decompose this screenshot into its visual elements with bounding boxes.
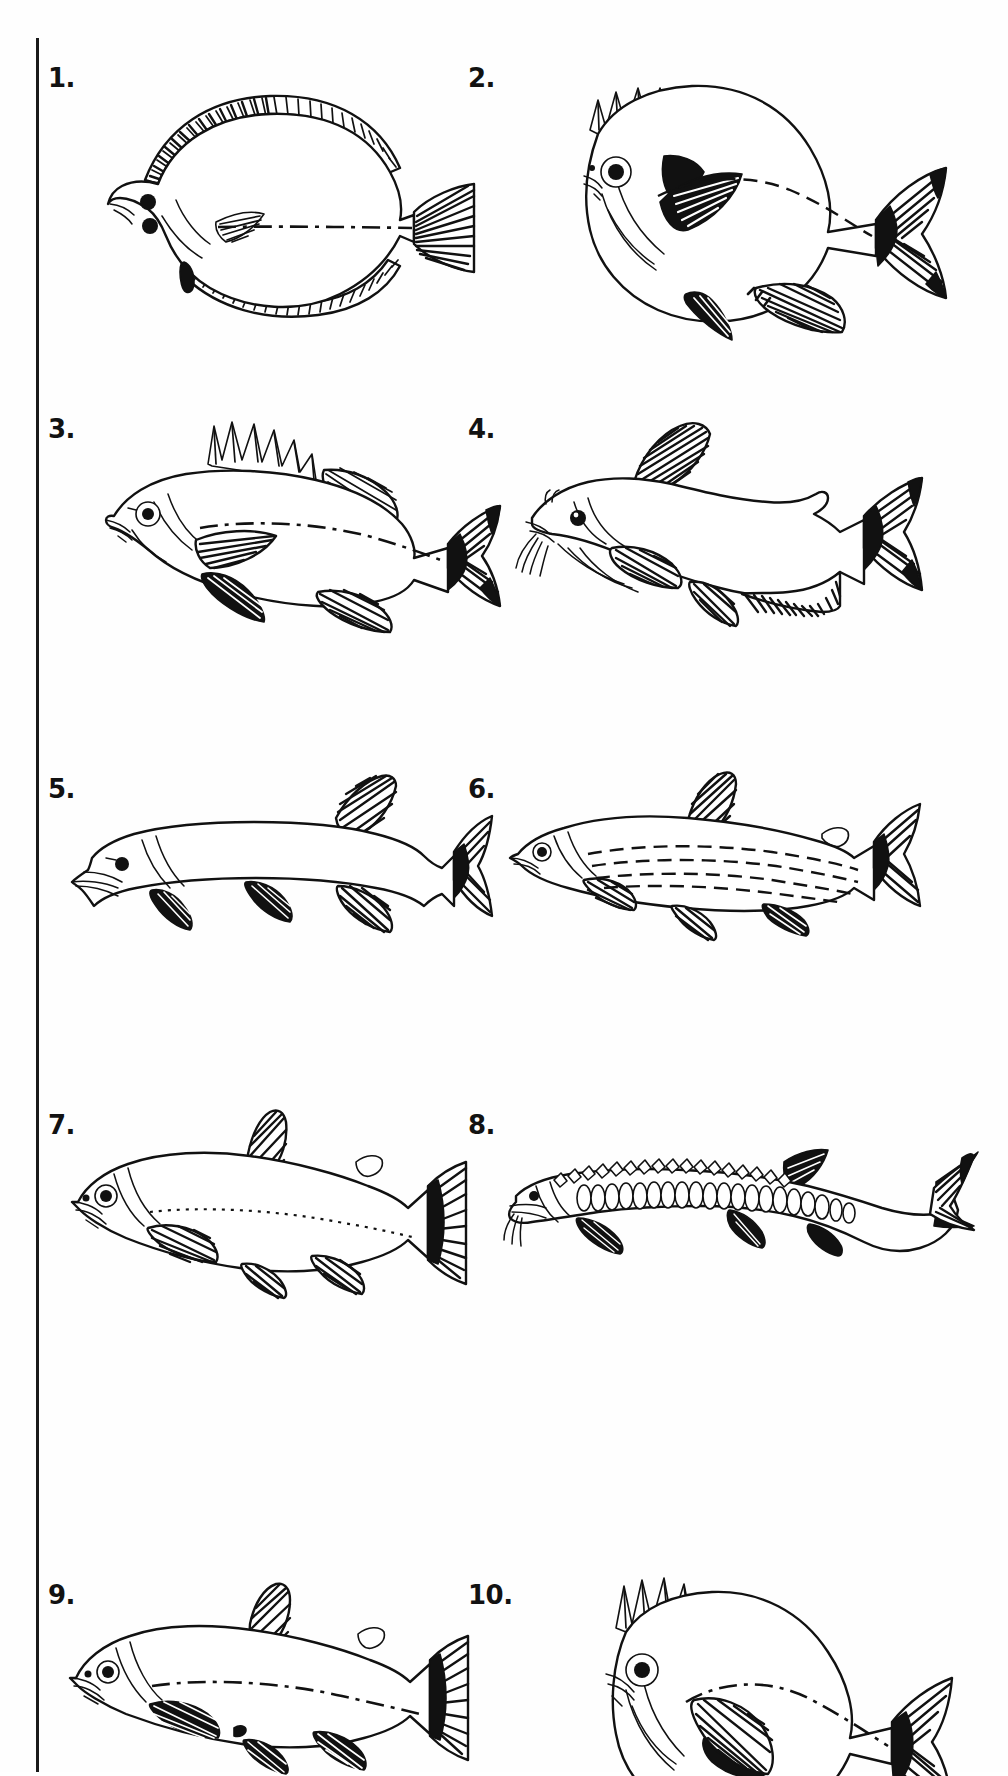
fish-illustration-pike-musky bbox=[60, 760, 480, 915]
figure-6-smelt-whitefish[interactable]: 6. bbox=[468, 750, 1008, 920]
fish-illustration-perch-walleye bbox=[68, 398, 478, 608]
figure-7-trout-salmon[interactable]: 7. bbox=[40, 1090, 470, 1280]
fish-illustration-crappie-sunfish bbox=[516, 1566, 996, 1776]
figure-1-flatfish-flounder[interactable]: 1. bbox=[40, 40, 470, 340]
fish-illustration-catfish-bullhead bbox=[492, 398, 992, 608]
figure-5-pike-musky[interactable]: 5. bbox=[40, 760, 470, 920]
fish-illustration-sunfish-bluegill bbox=[498, 44, 978, 334]
fish-illustration-trout-char bbox=[56, 1570, 486, 1770]
fish-illustration-sturgeon bbox=[488, 1110, 988, 1270]
figure-9-trout-char[interactable]: 9. bbox=[40, 1560, 470, 1772]
figure-number-6: 6. bbox=[468, 776, 495, 802]
fish-illustration-smelt-whitefish bbox=[492, 760, 992, 920]
figure-2-sunfish-bluegill[interactable]: 2. bbox=[468, 40, 1008, 340]
figure-10-crappie-sunfish[interactable]: 10. bbox=[468, 1560, 1008, 1772]
figure-number-10: 10. bbox=[468, 1582, 513, 1608]
fish-illustration-flatfish-flounder bbox=[70, 50, 470, 330]
figure-number-2: 2. bbox=[468, 65, 495, 91]
figure-4-catfish-bullhead[interactable]: 4. bbox=[468, 398, 1008, 628]
figure-3-perch-walleye[interactable]: 3. bbox=[40, 398, 470, 628]
figure-number-4: 4. bbox=[468, 416, 495, 442]
fish-illustration-trout-salmon bbox=[56, 1098, 486, 1278]
figure-8-sturgeon[interactable]: 8. bbox=[468, 1090, 1008, 1280]
